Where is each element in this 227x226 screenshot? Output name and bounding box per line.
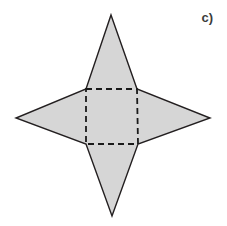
four-pointed-star-figure <box>0 0 227 226</box>
panel-label: c) <box>201 11 213 24</box>
figure-container: c) <box>0 0 227 226</box>
